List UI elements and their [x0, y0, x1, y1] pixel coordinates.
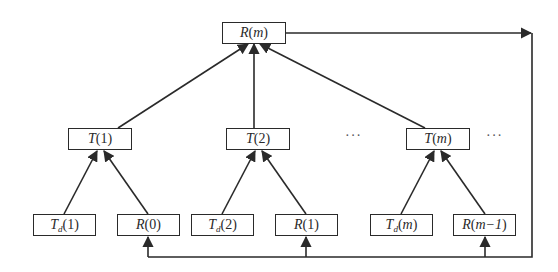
node-root-r-m: R(m) [222, 22, 286, 44]
edge-t1-rm [118, 44, 248, 128]
node-t-2: T(2) [226, 128, 290, 150]
node-arg: 1 [307, 217, 314, 232]
node-symbol: T [208, 217, 216, 233]
node-subscript: d [393, 224, 398, 234]
node-subscript: d [58, 224, 63, 234]
node-symbol: R [240, 25, 249, 41]
node-symbol: T [50, 217, 58, 233]
edge-r0-t1 [104, 151, 148, 214]
node-symbol: R [294, 217, 303, 233]
edge-rm1-tm [441, 151, 485, 214]
node-arg: 0 [149, 217, 156, 232]
node-arg: 1 [67, 217, 74, 232]
tree-diagram: R(m) T(1) T(2) ··· T(m) ··· Td(1) R(0) T… [0, 0, 558, 272]
node-td-1: Td(1) [33, 214, 96, 236]
node-symbol: R [462, 217, 471, 233]
node-r-m-minus-1: R(m−1) [453, 214, 516, 236]
node-arg: 2 [258, 131, 265, 146]
node-t-1: T(1) [68, 128, 132, 150]
node-symbol: T [88, 131, 96, 147]
node-r-1: R(1) [275, 214, 338, 236]
node-symbol: T [424, 131, 432, 147]
edge-td1-t1 [64, 151, 97, 214]
node-symbol: R [136, 217, 145, 233]
node-arg: m [253, 25, 263, 40]
node-arg: 2 [225, 217, 232, 232]
node-symbol: T [246, 131, 254, 147]
edge-tm-rm [260, 44, 425, 128]
node-r-0: R(0) [117, 214, 180, 236]
edge-r1-t2 [262, 151, 306, 214]
node-arg: 1 [100, 131, 107, 146]
node-subscript: d [216, 224, 221, 234]
node-symbol: T [386, 217, 394, 233]
node-arg: m−1 [476, 217, 503, 232]
node-arg: m [437, 131, 447, 146]
edge-td2-t2 [222, 151, 255, 214]
ellipsis-middle: ··· [345, 128, 362, 144]
ellipsis-right: ··· [486, 128, 503, 144]
edge-tdm-tm [401, 151, 434, 214]
node-t-m: T(m) [406, 128, 470, 150]
node-td-m: Td(m) [370, 214, 433, 236]
node-td-2: Td(2) [191, 214, 254, 236]
node-arg: m [403, 217, 413, 232]
